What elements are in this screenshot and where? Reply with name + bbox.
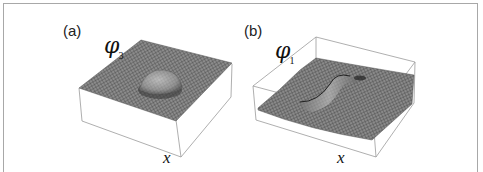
z-subscript: 3 <box>118 50 123 61</box>
panel-a-x-axis-label: x <box>163 148 171 168</box>
panel-a-label: (a) <box>63 22 81 39</box>
z-subscript: 1 <box>289 55 294 66</box>
panel-b-z-axis-label: φ1 <box>275 38 294 66</box>
panel-b-x-axis-label: x <box>337 148 345 168</box>
panel-b-label: (b) <box>244 22 262 39</box>
panel-a-surface <box>79 40 232 121</box>
panel-a-z-axis-label: φ3 <box>104 33 123 61</box>
